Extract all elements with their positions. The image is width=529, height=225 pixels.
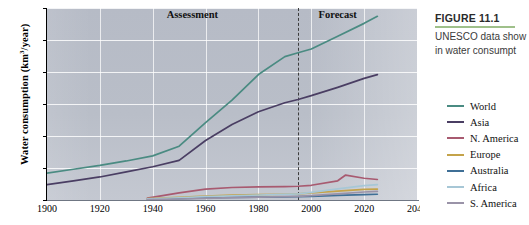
y-tick-mark bbox=[43, 72, 47, 73]
legend-swatch bbox=[447, 121, 464, 123]
figure-root: Water consumption (km3/year) Assessment … bbox=[0, 0, 529, 225]
chart-area: Water consumption (km3/year) Assessment … bbox=[0, 0, 420, 225]
series-line-asia bbox=[47, 75, 377, 185]
x-tick-label: 1960 bbox=[186, 203, 226, 214]
legend-item[interactable]: Asia bbox=[447, 114, 529, 130]
y-tick-mark bbox=[43, 200, 47, 201]
x-tick-label: 1900 bbox=[27, 203, 67, 214]
legend-item[interactable]: Europe bbox=[447, 147, 529, 163]
y-tick-mark bbox=[43, 104, 47, 105]
y-axis-title: Water consumption (km3/year) bbox=[18, 4, 31, 184]
x-tick-label: 1920 bbox=[80, 203, 120, 214]
figure-rule bbox=[435, 26, 515, 28]
legend-swatch bbox=[447, 154, 464, 156]
legend-label: N. America bbox=[470, 133, 518, 144]
x-tick-label: 2020 bbox=[344, 203, 384, 214]
figure-caption-line-1: UNESCO data show bbox=[435, 30, 529, 44]
plot-region bbox=[47, 8, 417, 200]
x-tick-label: 1980 bbox=[238, 203, 278, 214]
legend-label: Europe bbox=[470, 149, 500, 160]
legend-swatch bbox=[447, 137, 464, 139]
annotation-forecast: Forecast bbox=[319, 9, 357, 20]
x-tick-label: 1940 bbox=[133, 203, 173, 214]
y-axis-title-suffix: /year) bbox=[19, 24, 30, 51]
figure-caption: UNESCO data show in water consumpt bbox=[435, 30, 529, 57]
series-line-world bbox=[47, 16, 377, 173]
legend-item[interactable]: World bbox=[447, 98, 529, 114]
legend-item[interactable]: N. America bbox=[447, 130, 529, 146]
annotation-assessment: Assessment bbox=[167, 9, 218, 20]
legend-label: S. America bbox=[470, 198, 517, 209]
legend-item[interactable]: Australia bbox=[447, 163, 529, 179]
legend-label: Africa bbox=[470, 182, 497, 193]
figure-caption-line-2: in water consumpt bbox=[435, 44, 529, 58]
x-tick-label: 2000 bbox=[291, 203, 331, 214]
legend-item[interactable]: Africa bbox=[447, 179, 529, 195]
legend-swatch bbox=[447, 170, 464, 172]
y-tick-mark bbox=[43, 40, 47, 41]
legend: WorldAsiaN. AmericaEuropeAustraliaAfrica… bbox=[447, 98, 529, 211]
x-axis-line bbox=[47, 200, 419, 201]
legend-swatch bbox=[447, 202, 464, 204]
legend-swatch bbox=[447, 105, 464, 107]
legend-label: World bbox=[470, 101, 496, 112]
legend-label: Asia bbox=[470, 117, 489, 128]
series-lines bbox=[47, 8, 417, 200]
y-tick-mark bbox=[43, 8, 47, 9]
y-axis-title-superscript: 3 bbox=[18, 50, 26, 54]
legend-item[interactable]: S. America bbox=[447, 195, 529, 211]
caption-panel: FIGURE 11.1 UNESCO data show in water co… bbox=[420, 0, 529, 225]
y-tick-mark bbox=[43, 168, 47, 169]
y-axis-title-prefix: Water consumption (km bbox=[19, 54, 30, 165]
legend-label: Australia bbox=[470, 165, 509, 176]
legend-swatch bbox=[447, 186, 464, 188]
y-tick-mark bbox=[43, 136, 47, 137]
figure-number: FIGURE 11.1 bbox=[435, 12, 500, 24]
